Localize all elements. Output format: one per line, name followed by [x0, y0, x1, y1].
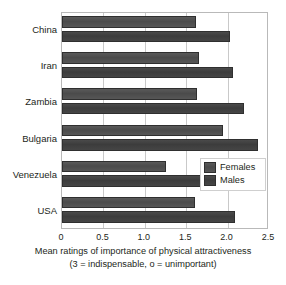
bar-group — [62, 122, 267, 158]
bar-group — [62, 13, 267, 49]
category-axis-labels: ChinaIranZambiaBulgariaVenezuelaUSA — [0, 12, 57, 229]
x-axis-title-line2: (3 = indispensable, o = unimportant) — [0, 258, 286, 270]
bar-females-usa — [62, 197, 195, 209]
legend-item-females: Females — [204, 161, 263, 174]
bar-group — [62, 85, 267, 121]
legend-swatch-females-icon — [204, 162, 216, 173]
category-label-iran: Iran — [0, 61, 57, 71]
bar-rows — [62, 13, 267, 228]
bar-group — [62, 49, 267, 85]
legend-swatch-males-icon — [204, 175, 216, 186]
legend-label-females: Females — [220, 162, 255, 173]
x-tick-label: 1.5 — [179, 231, 192, 243]
bar-males-venezuela — [62, 175, 209, 187]
bar-males-zambia — [62, 103, 244, 115]
bar-females-bulgaria — [62, 125, 223, 137]
bar-females-zambia — [62, 88, 197, 100]
x-axis-tick-labels: 00.51.01.52.02.5 — [0, 231, 286, 245]
bar-chart: ChinaIranZambiaBulgariaVenezuelaUSA 00.5… — [0, 0, 286, 285]
bar-males-bulgaria — [62, 139, 258, 151]
bar-males-china — [62, 31, 230, 43]
x-tick-label: 2.5 — [262, 231, 275, 243]
x-axis-title-line1: Mean ratings of importance of physical a… — [0, 245, 286, 257]
legend-item-males: Males — [204, 174, 263, 187]
category-label-usa: USA — [0, 206, 57, 216]
bar-males-iran — [62, 67, 233, 79]
x-tick-label: 2.0 — [220, 231, 233, 243]
legend: Females Males — [200, 158, 266, 191]
bar-females-venezuela — [62, 161, 166, 173]
category-label-venezuela: Venezuela — [0, 170, 57, 180]
category-label-bulgaria: Bulgaria — [0, 134, 57, 144]
x-tick-label: 0.5 — [96, 231, 109, 243]
plot-area — [61, 12, 268, 229]
category-label-china: China — [0, 25, 57, 35]
x-tick-label: 0 — [58, 231, 63, 243]
bar-males-usa — [62, 211, 235, 223]
category-label-zambia: Zambia — [0, 97, 57, 107]
bar-females-iran — [62, 52, 199, 64]
bar-group — [62, 194, 267, 230]
legend-label-males: Males — [220, 175, 245, 186]
bar-females-china — [62, 16, 196, 28]
x-tick-label: 1.0 — [138, 231, 151, 243]
